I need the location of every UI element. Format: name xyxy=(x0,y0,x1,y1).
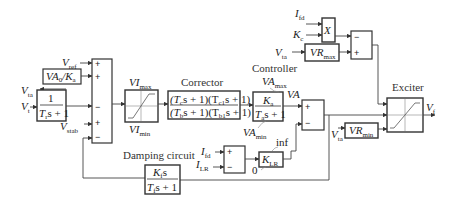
controller-block: Ka Tas + 1 xyxy=(253,92,286,122)
kc-label: Kc xyxy=(292,28,303,43)
svg-text:VImin: VImin xyxy=(129,123,151,138)
svg-text:Trs + 1: Trs + 1 xyxy=(39,107,69,121)
ifd-bottom-label: Ifd xyxy=(200,145,211,160)
svg-text:−: − xyxy=(305,118,310,128)
va-max-label: VAmax xyxy=(262,75,287,90)
vr-min-block: VRmin xyxy=(345,123,378,139)
svg-text:+: + xyxy=(305,102,310,112)
va-min-label: VAmin xyxy=(243,126,267,141)
main-summing-junction: + + − + − xyxy=(92,59,112,143)
svg-text:VImax: VImax xyxy=(129,76,152,91)
svg-text:X: X xyxy=(323,24,332,36)
sign-2: + xyxy=(95,72,100,82)
ifd-top-label: Ifd xyxy=(294,7,305,22)
klr-block: KLR xyxy=(259,152,283,168)
sign-1: + xyxy=(95,59,100,69)
vta-left-label: Vta xyxy=(21,84,34,99)
klr-upper-limit: inf xyxy=(276,136,289,148)
vr-max-block: VRmax xyxy=(305,44,339,61)
va-signal-label: VA xyxy=(287,88,300,100)
va0-ka-block: VA0/Ka xyxy=(43,69,81,84)
va-summing-junction: + − xyxy=(302,100,324,130)
controller-label: Controller xyxy=(252,62,298,74)
transducer-block: 1 Trs + 1 xyxy=(37,90,69,121)
multiplier-block: X xyxy=(322,18,335,42)
svg-text:+: + xyxy=(227,147,232,157)
damping-block: Kfs Tfs + 1 xyxy=(145,165,180,195)
sign-3: − xyxy=(95,102,100,112)
svg-text:Kfs: Kfs xyxy=(152,166,167,180)
ilr-label: ILR xyxy=(195,158,209,173)
vi-limiter-block: VImax VImin xyxy=(125,76,158,138)
vstab-label: Vstab xyxy=(60,120,79,135)
svg-text:+: + xyxy=(354,48,359,58)
vta-top-label: Vta xyxy=(275,46,288,61)
svg-text:−: − xyxy=(354,32,359,42)
klr-lower-limit: 0 xyxy=(252,164,258,176)
corrector-block: (Tcs + 1)(Tc1s + 1) (Tbs + 1)(Tb1s + 1) xyxy=(168,91,251,120)
vt-label: Vt xyxy=(21,100,30,115)
damping-circuit-label: Damping circuit xyxy=(123,149,195,161)
corrector-label: Corrector xyxy=(181,76,223,88)
svg-text:1: 1 xyxy=(48,92,54,104)
vf-label: Vf xyxy=(426,101,436,116)
sign-5: − xyxy=(95,132,100,142)
svg-text:Tfs + 1: Tfs + 1 xyxy=(147,181,177,195)
excitation-diagram: + + − + − Vref VA0/Ka Vta 1 Trs + 1 Vt V… xyxy=(0,0,451,209)
svg-text:Tas + 1: Tas + 1 xyxy=(255,108,286,122)
svg-text:VA0/Ka: VA0/Ka xyxy=(46,70,77,84)
top-summing-junction: − + xyxy=(351,31,372,59)
sign-4: + xyxy=(95,118,100,128)
svg-text:−: − xyxy=(227,162,232,172)
vta-bottom-label: Vta xyxy=(331,128,344,143)
exciter-block xyxy=(387,98,423,132)
exciter-label: Exciter xyxy=(392,81,424,93)
ilr-summing-junction: + − xyxy=(224,146,245,173)
